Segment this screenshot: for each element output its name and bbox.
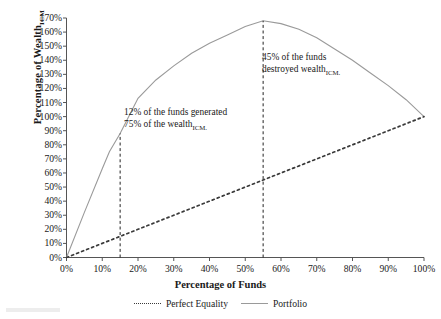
funds-generated-annotation: 12% of the funds generated 75% of the we… — [124, 106, 227, 134]
legend-label: Portfolio — [273, 298, 307, 309]
x-axis-tick-label: 80% — [333, 264, 373, 274]
page-artifact-mark — [6, 308, 60, 312]
annotation-line-2-text: 75% of the wealth — [124, 119, 192, 129]
x-axis-tick-label: 90% — [368, 264, 408, 274]
x-axis-tick-label: 0% — [47, 264, 87, 274]
reference-lines — [120, 21, 263, 258]
x-axis-tick-label: 50% — [225, 264, 265, 274]
x-axis-tick-label: 60% — [261, 264, 301, 274]
annotation-line-1: 45% of the funds — [262, 51, 340, 63]
dotted-line-swatch-icon — [134, 301, 161, 307]
annotation-line-2-subscript: ICM. — [192, 124, 207, 131]
annotation-line-2: 75% of the wealthICM. — [124, 118, 227, 134]
annotation-line-2-text: destroyed wealth — [262, 64, 326, 74]
y-axis-tick-marks — [63, 18, 67, 258]
x-axis-tick-label: 10% — [82, 264, 122, 274]
legend-item-perfect-equality: Perfect Equality — [134, 298, 228, 309]
x-axis-tick-label: 100% — [404, 264, 441, 274]
annotation-line-2: destroyed wealthICM. — [262, 63, 340, 79]
solid-line-swatch-icon — [241, 301, 268, 307]
legend-item-portfolio: Portfolio — [241, 298, 307, 309]
legend-label: Perfect Equality — [166, 298, 228, 309]
lorenz-curve-chart: Percentage of WealthICM 0%10%20%30%40%50… — [0, 0, 441, 319]
x-axis-tick-label: 40% — [190, 264, 230, 274]
x-axis-title: Percentage of Funds — [0, 279, 441, 290]
x-axis-tick-label: 20% — [118, 264, 158, 274]
annotation-line-1: 12% of the funds generated — [124, 106, 227, 118]
x-axis-tick-label: 30% — [154, 264, 194, 274]
x-axis-tick-marks — [67, 258, 425, 262]
annotation-line-2-subscript: ICM. — [326, 69, 341, 76]
wealth-destroyed-annotation: 45% of the funds destroyed wealthICM. — [262, 51, 340, 79]
x-axis-tick-label: 70% — [297, 264, 337, 274]
chart-legend: Perfect Equality Portfolio — [0, 298, 441, 309]
